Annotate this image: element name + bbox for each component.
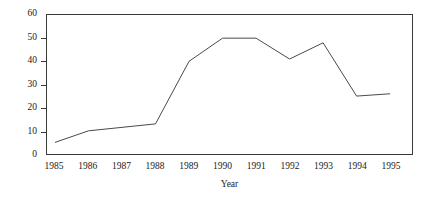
y-axis: 0102030405060 — [0, 0, 46, 202]
x-axis: 1985198619871988198919901991199219931994… — [46, 158, 413, 178]
x-tick-label: 1995 — [382, 162, 401, 172]
x-axis-title: Year — [46, 180, 413, 190]
line-series — [47, 15, 412, 154]
x-tick-label: 1986 — [78, 162, 97, 172]
y-tick-label: 30 — [28, 80, 38, 90]
x-tick-label: 1991 — [247, 162, 266, 172]
x-tick-label: 1985 — [45, 162, 64, 172]
y-tick-label: 0 — [32, 150, 37, 160]
x-tick-label: 1992 — [280, 162, 299, 172]
x-tick-label: 1989 — [179, 162, 198, 172]
x-tick-label: 1990 — [213, 162, 232, 172]
y-tick-label: 50 — [28, 33, 38, 43]
x-tick-label: 1994 — [348, 162, 367, 172]
x-tick-label: 1993 — [314, 162, 333, 172]
chart-page: 0102030405060 19851986198719881989199019… — [0, 0, 427, 202]
x-tick-label: 1988 — [146, 162, 165, 172]
y-tick-label: 20 — [28, 103, 38, 113]
y-tick-label: 60 — [28, 9, 38, 19]
y-tick-label: 10 — [28, 127, 38, 137]
plot-area — [46, 14, 413, 155]
y-tick-label: 40 — [28, 56, 38, 66]
x-tick-label: 1987 — [112, 162, 131, 172]
